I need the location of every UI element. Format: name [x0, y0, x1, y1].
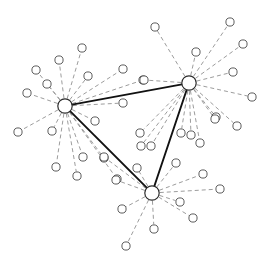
leaf-node-R10[interactable]	[187, 131, 195, 139]
leaf-edge-R02	[191, 57, 195, 76]
leaf-node-B08[interactable]	[216, 185, 224, 193]
leaf-node-B01[interactable]	[100, 153, 108, 161]
leaf-edge-B05	[152, 201, 153, 225]
leaf-node-B07[interactable]	[176, 198, 184, 206]
leaf-node-L15[interactable]	[73, 172, 81, 180]
leaf-node-B05[interactable]	[150, 225, 158, 233]
leaf-edge-B04	[128, 200, 148, 242]
leaf-node-B02[interactable]	[112, 176, 120, 184]
leaf-node-R01[interactable]	[151, 23, 159, 31]
leaf-node-R12[interactable]	[147, 142, 155, 150]
leaf-edge-B08	[160, 189, 216, 192]
leaf-node-L02[interactable]	[55, 56, 63, 64]
hub-edge-hub-bottom-to-hub-left	[70, 111, 147, 188]
leaf-edge-L15	[66, 114, 76, 172]
hub-node-hub-top-right[interactable]	[182, 76, 196, 90]
leaf-node-L12[interactable]	[119, 99, 127, 107]
leaf-node-L01[interactable]	[78, 44, 86, 52]
leaf-node-L11[interactable]	[91, 117, 99, 125]
leaf-node-R04[interactable]	[239, 40, 247, 48]
leaf-edge-L02	[60, 65, 64, 99]
leaf-node-B03[interactable]	[118, 205, 126, 213]
leaf-edge-R15	[149, 80, 182, 82]
leaf-node-B10[interactable]	[172, 159, 180, 167]
leaf-node-R14[interactable]	[136, 129, 144, 137]
leaf-node-R16[interactable]	[211, 115, 219, 123]
leaf-node-L09[interactable]	[79, 153, 87, 161]
leaf-node-R03[interactable]	[226, 18, 234, 26]
leaf-edge-L08	[57, 114, 64, 163]
leaf-node-B09[interactable]	[199, 170, 207, 178]
leaf-node-R11[interactable]	[177, 129, 185, 137]
leaf-node-L14[interactable]	[119, 65, 127, 73]
leaf-node-layer	[14, 18, 256, 250]
leaf-node-B06[interactable]	[189, 214, 197, 222]
leaf-node-R08[interactable]	[233, 122, 241, 130]
leaf-edge-L07	[54, 113, 61, 127]
leaf-node-B11[interactable]	[133, 164, 141, 172]
leaf-edge-L05	[31, 95, 57, 104]
leaf-edge-L01	[67, 53, 80, 99]
leaf-edge-L11	[72, 109, 91, 118]
leaf-node-R06[interactable]	[248, 93, 256, 101]
leaf-node-R15[interactable]	[140, 76, 148, 84]
leaf-edge-R06	[197, 85, 248, 96]
hub-node-hub-bottom[interactable]	[145, 186, 159, 200]
leaf-node-R02[interactable]	[192, 48, 200, 56]
leaf-node-B04[interactable]	[122, 242, 130, 250]
leaf-edge-R14	[143, 89, 183, 130]
leaf-edge-B03	[126, 197, 145, 207]
leaf-node-L05[interactable]	[23, 89, 31, 97]
leaf-edge-R01	[157, 31, 185, 76]
leaf-node-L17[interactable]	[32, 66, 40, 74]
leaf-node-L03[interactable]	[84, 72, 92, 80]
leaf-edge-B07	[159, 195, 175, 200]
leaf-node-L08[interactable]	[52, 163, 60, 171]
hub-edge-hub-top-right-to-hub-bottom	[154, 90, 186, 186]
leaf-node-L07[interactable]	[48, 127, 56, 135]
leaf-node-R05[interactable]	[229, 68, 237, 76]
diagram-canvas	[0, 0, 268, 265]
leaf-node-L04[interactable]	[43, 80, 51, 88]
leaf-node-R13[interactable]	[137, 142, 145, 150]
leaf-edge-L13	[72, 81, 138, 103]
network-graph	[0, 0, 268, 265]
leaf-edge-B09	[159, 176, 198, 191]
leaf-edge-R16	[194, 89, 213, 115]
leaf-node-R09[interactable]	[196, 139, 204, 147]
hub-node-hub-left[interactable]	[58, 99, 72, 113]
leaf-edge-B01	[108, 160, 146, 189]
leaf-edge-R07	[194, 89, 213, 113]
leaf-edge-R10	[189, 91, 191, 131]
leaf-node-L06[interactable]	[14, 128, 22, 136]
